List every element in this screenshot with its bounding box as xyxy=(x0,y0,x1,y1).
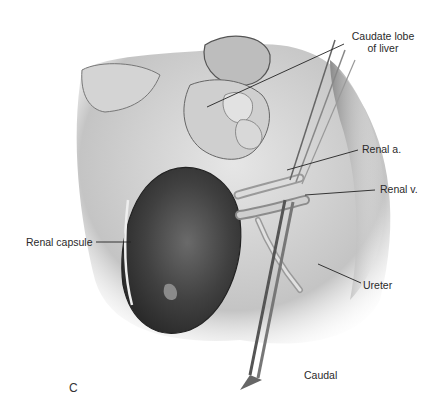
surgical-illustration: Caudate lobe of liver Renal a. Renal v. … xyxy=(0,0,436,409)
renal-vein-label: Renal v. xyxy=(380,183,418,195)
renal-artery-label: Renal a. xyxy=(362,143,401,155)
renal-capsule-label: Renal capsule xyxy=(26,236,93,248)
caudate-lobe-label: Caudate lobe of liver xyxy=(330,30,436,54)
caudal-orientation-label: Caudal xyxy=(304,369,337,381)
panel-letter: C xyxy=(69,381,78,395)
anatomy-drawing xyxy=(0,0,436,409)
ureter-label: Ureter xyxy=(363,279,392,291)
caudate-lobe-label-line1: Caudate lobe xyxy=(330,30,436,42)
caudate-lobe-label-line2: of liver xyxy=(330,42,436,54)
